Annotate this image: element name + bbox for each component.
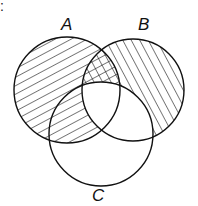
label-a: A (60, 15, 72, 34)
corner-mark: : (0, 0, 4, 14)
label-c: C (92, 186, 105, 205)
label-b: B (138, 15, 149, 34)
venn-diagram: : A B C (0, 0, 198, 206)
